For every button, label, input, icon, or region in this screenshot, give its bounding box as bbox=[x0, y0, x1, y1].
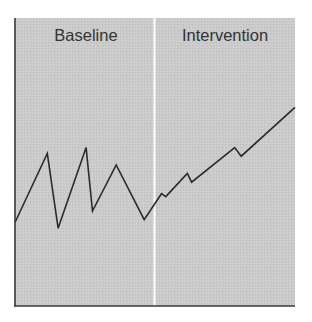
single-case-design-chart: Baseline Intervention bbox=[0, 0, 312, 322]
baseline-label: Baseline bbox=[54, 26, 117, 44]
intervention-label: Intervention bbox=[182, 26, 268, 44]
